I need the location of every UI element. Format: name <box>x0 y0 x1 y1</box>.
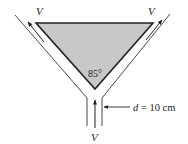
wedge-flow-diagram: V V V 85° d = 10 cm <box>0 0 188 144</box>
diameter-value: = 10 cm <box>138 102 175 113</box>
velocity-label-top-left: V <box>36 5 44 17</box>
diameter-label: d = 10 cm <box>133 102 175 113</box>
velocity-label-top-right: V <box>148 5 156 17</box>
velocity-label-bottom: V <box>91 131 99 143</box>
angle-label: 85° <box>88 68 102 79</box>
